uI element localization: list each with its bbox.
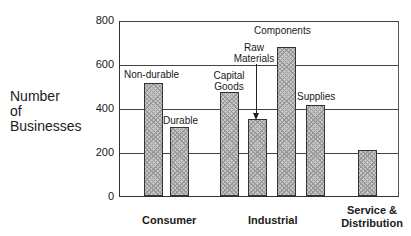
y-tick-0: 0	[84, 190, 114, 202]
label-non-durable: Non-durable	[124, 69, 179, 80]
y-tick-200: 200	[84, 146, 114, 158]
arrow-down-icon	[253, 113, 259, 120]
bar-durable	[170, 127, 189, 196]
group-label-service-distribution: Service & Distribution	[338, 204, 406, 230]
y-axis-label-line: Businesses	[10, 119, 82, 134]
y-tick-800: 800	[84, 14, 114, 26]
y-axis-label-line: of	[10, 104, 82, 119]
y-axis-label-line: Number	[10, 89, 82, 104]
group-label-industrial: Industrial	[248, 214, 298, 227]
group-label-distribution-line: Distribution	[338, 217, 406, 230]
gridline-600	[120, 65, 398, 66]
arrow-line	[256, 64, 257, 113]
bar-non-durable	[144, 83, 163, 196]
label-raw-line: Raw	[232, 42, 276, 53]
label-raw-materials: Raw Materials	[232, 42, 276, 64]
bar-capital-goods	[220, 92, 239, 196]
label-materials-line: Materials	[232, 53, 276, 64]
y-tick-400: 400	[84, 102, 114, 114]
y-tick-600: 600	[84, 58, 114, 70]
label-supplies: Supplies	[297, 91, 335, 102]
bar-raw-materials	[248, 119, 267, 196]
label-durable: Durable	[163, 115, 198, 126]
bar-service-distribution	[358, 150, 377, 196]
label-goods-line: Goods	[211, 81, 247, 92]
label-capital-line: Capital	[211, 70, 247, 81]
bar-components	[277, 47, 296, 196]
y-axis-label: Number of Businesses	[10, 89, 82, 134]
group-label-service-line: Service &	[338, 204, 406, 217]
group-label-consumer: Consumer	[142, 214, 196, 227]
label-components: Components	[254, 25, 311, 36]
label-capital-goods: Capital Goods	[211, 70, 247, 92]
bar-supplies	[306, 105, 325, 196]
